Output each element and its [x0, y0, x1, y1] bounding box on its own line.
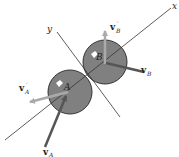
y-axis-label: y — [46, 24, 53, 34]
vb-prime-label: v B ′ — [109, 20, 121, 34]
svg-text:A: A — [48, 151, 54, 157]
svg-text:v: v — [18, 83, 25, 93]
va-prime-label: v A ′ — [18, 81, 30, 95]
va-label: v A — [42, 147, 54, 157]
vb-label: v B — [140, 65, 152, 77]
x-axis-label: x — [172, 1, 177, 11]
svg-text:v: v — [42, 147, 49, 157]
collision-diagram: x y A B v B ′ v B v A ′ v A — [0, 0, 179, 157]
svg-text:′: ′ — [26, 81, 28, 88]
svg-text:v: v — [109, 22, 116, 32]
svg-text:′: ′ — [117, 20, 119, 27]
sphere-a-label: A — [63, 82, 71, 92]
sphere-b-label: B — [95, 52, 103, 62]
svg-text:B: B — [115, 27, 121, 34]
svg-text:v: v — [140, 65, 147, 75]
svg-text:A: A — [24, 88, 30, 95]
svg-text:B: B — [146, 70, 152, 77]
sphere-a — [48, 70, 92, 114]
